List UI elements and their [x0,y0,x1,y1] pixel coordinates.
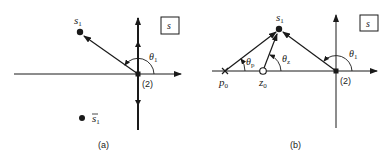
angle-arc-theta-z [270,55,281,71]
s-plane-label: s [167,20,171,31]
label-s1: s1 [74,14,82,28]
label-z0: z0 [258,76,267,90]
caption-b: (b) [290,140,301,150]
label-theta1: θ1 [149,51,158,64]
panel-a: s1 s1 θ1 (2) s (a) [14,14,181,150]
angle-arc-theta-p [241,59,245,71]
point-s1 [276,26,282,32]
locus-arrow-down-icon [135,100,141,106]
label-s1: s1 [276,11,284,25]
label-p0: p0 [218,76,229,90]
vector-to-s1 [84,36,138,74]
point-s1 [77,29,83,35]
panel-b: p0 z0 s1 θp θz θ1 (2) s (b) [212,11,378,150]
root-locus-figure: s1 s1 θ1 (2) s (a) p0 z0 s [0,0,386,166]
zero-z0-marker [260,68,267,75]
point-s1-conjugate [79,115,85,121]
label-theta-z: θz [282,53,290,66]
vector-origin-to-s1 [283,32,336,71]
label-multiplicity: (2) [142,79,153,89]
locus-arrow-up-icon [135,41,141,47]
label-multiplicity: (2) [340,76,351,86]
label-theta1: θ1 [349,48,358,61]
label-theta-p: θp [246,56,255,69]
caption-a: (a) [98,140,109,150]
label-s1-conjugate: s1 [92,112,100,126]
s-plane-label: s [366,18,370,29]
